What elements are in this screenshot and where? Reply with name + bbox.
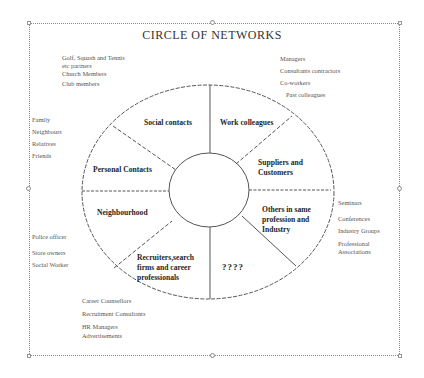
segment-recruiters: Recruiters,search firms and career profe… bbox=[137, 253, 194, 283]
segment-line: Others in same bbox=[262, 205, 311, 215]
external-item: Consultants contractors bbox=[280, 65, 340, 77]
external-others-list: Seminars Conferences Industry Groups Pro… bbox=[338, 197, 380, 256]
external-item: Co-workers bbox=[280, 77, 340, 89]
segment-personal-contacts: Personal Contacts bbox=[93, 165, 152, 175]
external-item: Police officer bbox=[32, 231, 68, 243]
external-recruiters-list: Career Counsellors Recruitment Consultan… bbox=[82, 294, 145, 340]
external-item: Golf, Squash and Tennis bbox=[62, 54, 125, 62]
external-item: Relatives bbox=[32, 138, 62, 150]
external-item: Advertisements bbox=[82, 331, 145, 340]
external-item: HR Managers bbox=[82, 322, 145, 331]
external-item: Seminars bbox=[338, 197, 380, 209]
external-item: Friends bbox=[32, 150, 62, 162]
segment-line: Suppliers and bbox=[258, 158, 303, 168]
segment-unknown: ???? bbox=[222, 262, 244, 272]
segment-line: firms and career bbox=[137, 263, 194, 273]
segment-line: professionals bbox=[137, 273, 194, 283]
segment-neighbourhood: Neighbourhood bbox=[97, 208, 148, 218]
outer-ring bbox=[82, 85, 334, 299]
segment-line: Customers bbox=[258, 168, 303, 178]
external-item: Family bbox=[32, 114, 62, 126]
external-item: Club members bbox=[62, 80, 125, 88]
segment-suppliers-customers: Suppliers and Customers bbox=[258, 158, 303, 178]
external-item: Professional bbox=[338, 240, 380, 248]
external-work-list: Managers Consultants contractors Co-work… bbox=[280, 53, 340, 101]
external-item: Career Counsellors bbox=[82, 294, 145, 307]
external-item: Conferences bbox=[338, 213, 380, 225]
external-item: Social Worker bbox=[32, 259, 68, 271]
segment-line: profession and bbox=[262, 215, 311, 225]
external-item: Church Members bbox=[62, 70, 125, 78]
external-item: Associations bbox=[338, 248, 380, 256]
external-item: Recruitment Consultants bbox=[82, 307, 145, 320]
external-social-list: Golf, Squash and Tennis etc partners Chu… bbox=[62, 54, 125, 88]
external-item: Neighbours bbox=[32, 126, 62, 138]
segment-line: Recruiters,search bbox=[137, 253, 194, 263]
external-item: Industry Groups bbox=[338, 225, 380, 237]
segment-work-colleagues: Work colleagues bbox=[220, 118, 273, 128]
external-item: Past colleagues bbox=[280, 89, 340, 101]
inner-circle bbox=[169, 153, 249, 227]
external-item: Store owners bbox=[32, 247, 68, 259]
segment-others-in-profession: Others in same profession and Industry bbox=[262, 205, 311, 235]
external-item: etc partners bbox=[62, 62, 125, 70]
external-personal-list: Family Neighbours Relatives Friends bbox=[32, 114, 62, 162]
external-neighbourhood-list: Police officer Store owners Social Worke… bbox=[32, 231, 68, 271]
segment-social-contacts: Social contacts bbox=[144, 118, 192, 128]
segment-line: Industry bbox=[262, 225, 311, 235]
external-item: Managers bbox=[280, 53, 340, 65]
